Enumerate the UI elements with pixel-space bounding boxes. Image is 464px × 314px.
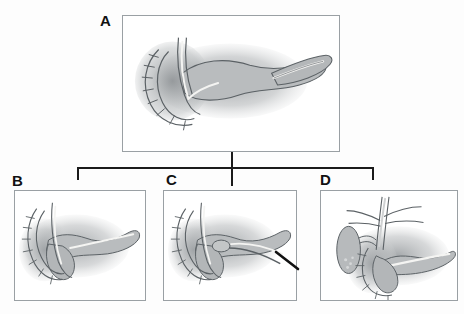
panel-label-d: D [320, 172, 331, 187]
connector-stub-right [372, 167, 374, 180]
connector-stub-center [231, 167, 233, 186]
anatomy-illustration-b [15, 191, 145, 300]
anatomy-illustration-d [321, 191, 457, 300]
connector-bar [77, 167, 373, 169]
connector-stub-left [77, 167, 79, 180]
panel-c [163, 190, 297, 301]
panel-b [14, 190, 146, 301]
panel-d [320, 190, 458, 301]
figure-root: A [0, 0, 464, 314]
panel-label-a: A [100, 13, 111, 28]
panel-a [122, 15, 340, 152]
anatomy-illustration-a [123, 16, 339, 151]
panel-label-c: C [166, 172, 177, 187]
anatomy-illustration-c [164, 191, 296, 300]
panel-label-b: B [12, 173, 23, 188]
pointer-marker-c [276, 252, 306, 276]
